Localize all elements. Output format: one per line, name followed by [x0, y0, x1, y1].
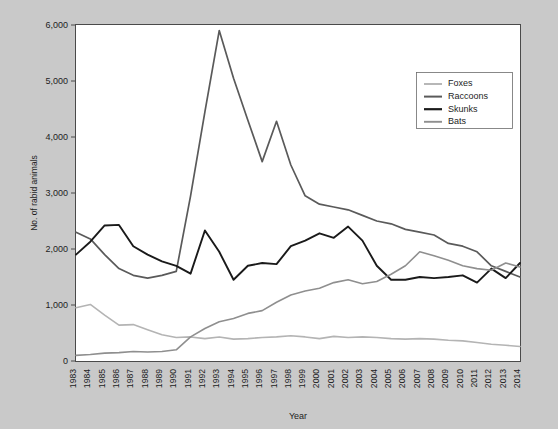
x-tick-label: 1993 — [211, 369, 221, 388]
chart-legend: FoxesRaccoonsSkunksBats — [417, 73, 513, 129]
x-tick-label: 1997 — [269, 369, 279, 388]
x-tick-label: 2000 — [311, 369, 321, 388]
x-tick-label: 2011 — [469, 369, 479, 388]
x-tick-label: 1995 — [240, 369, 250, 388]
x-tick-label: 2004 — [369, 369, 379, 388]
x-tick-label: 2013 — [498, 369, 508, 388]
x-tick-label: 1998 — [283, 369, 293, 388]
x-tick-label: 1999 — [297, 369, 307, 388]
legend-label-skunks: Skunks — [448, 104, 478, 114]
x-tick-label: 2003 — [354, 369, 364, 388]
x-tick-label: 1984 — [82, 369, 92, 388]
y-tick-label: 6,000 — [45, 20, 68, 30]
y-tick-label: 5,000 — [45, 76, 68, 86]
chart-figure: 01,0002,0003,0004,0005,0006,000 No. of r… — [0, 0, 558, 429]
x-tick-label: 1988 — [140, 369, 150, 388]
x-tick-label: 2001 — [326, 369, 336, 388]
x-axis-title: Year — [289, 411, 307, 421]
x-tick-label: 2009 — [440, 369, 450, 388]
y-tick-label: 3,000 — [45, 188, 68, 198]
x-tick-label: 2010 — [455, 369, 465, 388]
x-tick-label: 2007 — [412, 369, 422, 388]
x-tick-label: 2002 — [340, 369, 350, 388]
y-tick-label: 0 — [63, 356, 68, 366]
legend-label-raccoons: Raccoons — [448, 91, 489, 101]
legend-label-foxes: Foxes — [448, 78, 473, 88]
x-tick-label: 1989 — [154, 369, 164, 388]
x-tick-label: 1994 — [226, 369, 236, 388]
x-tick-label: 1985 — [97, 369, 107, 388]
x-tick-label: 2014 — [512, 369, 522, 388]
y-axis-title: No. of rabid animals — [29, 155, 39, 231]
x-tick-label: 1983 — [68, 369, 78, 388]
y-tick-label: 1,000 — [45, 300, 68, 310]
x-tick-label: 1996 — [254, 369, 264, 388]
x-tick-label: 2008 — [426, 369, 436, 388]
x-tick-label: 2005 — [383, 369, 393, 388]
legend-label-bats: Bats — [448, 116, 467, 126]
y-tick-label: 2,000 — [45, 244, 68, 254]
y-tick-label: 4,000 — [45, 132, 68, 142]
line-chart-svg: 01,0002,0003,0004,0005,0006,000 No. of r… — [0, 0, 558, 429]
x-tick-label: 1986 — [111, 369, 121, 388]
x-tick-label: 1987 — [125, 369, 135, 388]
x-tick-label: 1990 — [168, 369, 178, 388]
x-tick-label: 2012 — [483, 369, 493, 388]
x-tick-label: 2006 — [397, 369, 407, 388]
x-tick-label: 1991 — [183, 369, 193, 388]
x-tick-label: 1992 — [197, 369, 207, 388]
